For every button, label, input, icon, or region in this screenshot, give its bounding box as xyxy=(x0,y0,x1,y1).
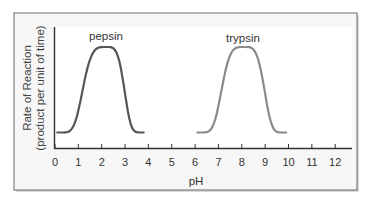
x-tick-label: 3 xyxy=(122,156,128,168)
x-tick-label: 0 xyxy=(52,156,58,168)
y-axis-label: Rate of Reaction xyxy=(21,45,33,131)
x-tick-label: 11 xyxy=(306,156,317,168)
x-tick-label: 1 xyxy=(75,156,81,168)
x-tick-label: 4 xyxy=(145,156,151,168)
x-tick-label: 5 xyxy=(169,156,175,168)
x-tick-label: 6 xyxy=(192,156,198,168)
x-axis-label: pH xyxy=(189,175,204,187)
plot-area xyxy=(54,27,352,148)
trypsin-label: trypsin xyxy=(226,32,260,44)
pepsin-label: pepsin xyxy=(89,30,123,42)
x-tick-label: 12 xyxy=(329,156,341,168)
x-tick-label: 8 xyxy=(239,156,245,168)
enzyme-ph-chart: 0123456789101112 pH Rate of Reaction (pr… xyxy=(0,0,370,202)
x-tick-label: 10 xyxy=(282,156,294,168)
y-axis-sublabel: (product per unit of time) xyxy=(34,25,46,150)
x-tick-label: 7 xyxy=(215,156,221,168)
x-tick-label: 2 xyxy=(99,156,105,168)
x-tick-label: 9 xyxy=(262,156,268,168)
